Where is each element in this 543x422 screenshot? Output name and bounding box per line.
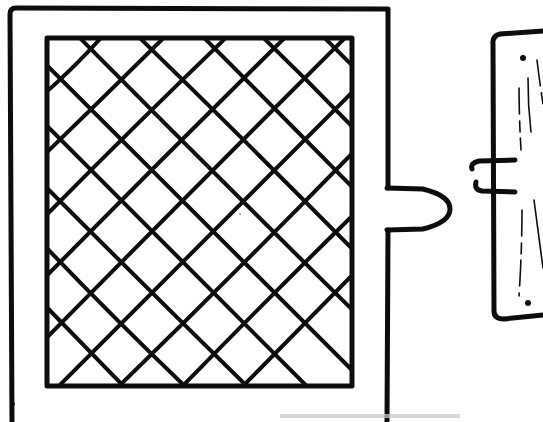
jamb-screw-hole-0 bbox=[520, 55, 526, 61]
scan-smudge bbox=[280, 414, 460, 418]
scan-speck-left bbox=[11, 402, 15, 406]
figure-root bbox=[0, 0, 543, 422]
scan-speck-panel bbox=[239, 213, 241, 215]
line-drawing-canvas bbox=[0, 0, 543, 422]
jamb-screw-hole-1 bbox=[525, 300, 531, 306]
